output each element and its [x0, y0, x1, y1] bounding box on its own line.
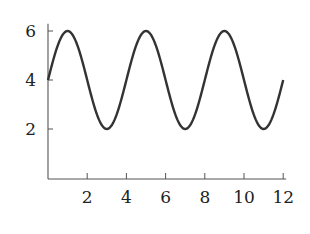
x-tick-label: 2: [82, 187, 93, 207]
x-tick-label: 4: [121, 187, 132, 207]
line-chart: 24681012246: [0, 0, 310, 234]
x-tick-label: 12: [272, 187, 294, 207]
y-tick-label: 2: [25, 119, 36, 139]
y-tick-label: 4: [25, 70, 36, 90]
x-tick-label: 10: [233, 187, 255, 207]
x-tick-label: 8: [199, 187, 210, 207]
x-tick-label: 6: [160, 187, 171, 207]
y-tick-label: 6: [25, 21, 36, 41]
sine-curve: [48, 31, 283, 129]
